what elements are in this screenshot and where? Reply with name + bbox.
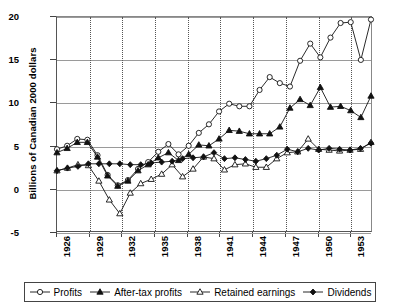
data-point-filled-diamond bbox=[169, 158, 174, 164]
data-point-filled-triangle bbox=[226, 127, 232, 132]
y-axis-title: Billions of Canadian 2000 dollars bbox=[27, 14, 38, 234]
data-point-open-circle bbox=[227, 101, 232, 106]
data-point-open-triangle bbox=[263, 164, 269, 169]
data-point-filled-diamond bbox=[253, 158, 258, 164]
x-tick-label: 1950 bbox=[323, 236, 334, 257]
x-tick-label: 1941 bbox=[224, 236, 235, 257]
legend-label: Retained earnings bbox=[214, 287, 295, 298]
series-profits bbox=[54, 17, 373, 188]
data-point-open-triangle bbox=[106, 197, 112, 202]
data-point-filled-diamond bbox=[368, 140, 373, 146]
data-point-open-circle bbox=[348, 20, 353, 25]
data-series-layer bbox=[57, 17, 371, 232]
data-point-open-circle bbox=[308, 41, 313, 46]
series-line bbox=[57, 87, 371, 186]
x-tick-label: 1953 bbox=[355, 236, 366, 257]
data-point-filled-diamond bbox=[117, 161, 122, 167]
chart-container: Billions of Canadian 2000 dollars 201510… bbox=[0, 0, 397, 307]
data-point-open-circle bbox=[247, 104, 252, 109]
data-point-filled-diamond bbox=[222, 156, 227, 162]
data-point-open-circle bbox=[196, 130, 201, 135]
data-point-open-circle bbox=[206, 122, 211, 127]
data-point-filled-triangle bbox=[368, 93, 374, 98]
legend-label: Dividends bbox=[327, 287, 371, 298]
x-tick-label: 1944 bbox=[257, 236, 268, 257]
data-point-open-circle bbox=[358, 57, 363, 62]
data-point-open-circle bbox=[216, 109, 221, 114]
data-point-filled-diamond bbox=[107, 161, 112, 167]
data-point-open-circle bbox=[277, 81, 282, 86]
data-point-open-circle bbox=[257, 87, 262, 92]
data-point-open-triangle bbox=[148, 176, 154, 181]
horizontal-gridline bbox=[57, 233, 371, 234]
legend-item-dividends[interactable]: Dividends bbox=[302, 287, 371, 298]
legend-item-after-tax-profits[interactable]: After-tax profits bbox=[89, 287, 182, 298]
legend-marker-open-circle-icon bbox=[29, 287, 51, 297]
data-point-open-circle bbox=[287, 84, 292, 89]
legend-marker-filled-diamond-icon bbox=[302, 287, 324, 297]
data-point-filled-diamond bbox=[285, 146, 290, 152]
data-point-filled-diamond bbox=[311, 289, 316, 295]
data-point-filled-triangle bbox=[307, 102, 313, 107]
data-point-open-circle bbox=[166, 141, 171, 146]
data-point-filled-diamond bbox=[232, 155, 237, 161]
legend-item-retained-earnings[interactable]: Retained earnings bbox=[189, 287, 295, 298]
chart-legend: ProfitsAfter-tax profitsRetained earning… bbox=[24, 282, 376, 302]
data-point-filled-triangle bbox=[277, 124, 283, 129]
y-tick-label: 0 bbox=[0, 183, 19, 194]
data-point-open-circle bbox=[267, 75, 272, 80]
legend-marker-filled-triangle-icon bbox=[89, 287, 111, 297]
data-point-open-circle bbox=[176, 152, 181, 157]
x-tick-label: 1947 bbox=[290, 236, 301, 257]
legend-label: After-tax profits bbox=[114, 287, 182, 298]
y-tick-label: -5 bbox=[0, 227, 19, 238]
data-point-open-circle bbox=[186, 143, 191, 148]
data-point-filled-diamond bbox=[128, 162, 133, 168]
data-point-open-circle bbox=[298, 58, 303, 63]
y-tick-label: 5 bbox=[0, 140, 19, 151]
data-point-filled-diamond bbox=[211, 150, 216, 156]
data-point-open-circle bbox=[37, 289, 42, 294]
legend-item-profits[interactable]: Profits bbox=[29, 287, 82, 298]
data-point-filled-triangle bbox=[256, 131, 262, 136]
x-tick-label: 1929 bbox=[94, 236, 105, 257]
data-point-filled-triangle bbox=[196, 142, 202, 147]
x-tick-label: 1926 bbox=[61, 236, 72, 257]
data-point-filled-triangle bbox=[358, 114, 364, 119]
data-point-filled-diamond bbox=[264, 156, 269, 162]
data-point-open-circle bbox=[338, 20, 343, 25]
y-tick-label: 20 bbox=[0, 11, 19, 22]
plot-area bbox=[56, 16, 372, 232]
data-point-filled-triangle bbox=[267, 131, 273, 136]
series-retained-earnings bbox=[54, 136, 374, 216]
data-point-open-circle bbox=[368, 17, 373, 22]
data-point-open-circle bbox=[156, 149, 161, 154]
data-point-filled-triangle bbox=[337, 103, 343, 108]
data-point-open-triangle bbox=[305, 136, 311, 141]
x-tick-label: 1938 bbox=[192, 236, 203, 257]
data-point-filled-triangle bbox=[97, 289, 103, 294]
data-point-open-circle bbox=[328, 35, 333, 40]
data-point-filled-triangle bbox=[317, 84, 323, 89]
x-tick-label: 1932 bbox=[126, 236, 137, 257]
y-tick-label: 10 bbox=[0, 97, 19, 108]
x-tick-label: 1935 bbox=[159, 236, 170, 257]
y-tick-label: 15 bbox=[0, 54, 19, 65]
series-after-tax-profits bbox=[54, 84, 374, 188]
data-point-open-triangle bbox=[197, 289, 203, 294]
data-point-filled-triangle bbox=[297, 96, 303, 101]
data-point-open-circle bbox=[237, 104, 242, 109]
data-point-filled-diamond bbox=[316, 147, 321, 153]
legend-marker-open-triangle-icon bbox=[189, 287, 211, 297]
data-point-filled-diamond bbox=[305, 145, 310, 151]
data-point-filled-triangle bbox=[165, 149, 171, 154]
data-point-filled-triangle bbox=[155, 155, 161, 160]
data-point-open-circle bbox=[318, 55, 323, 60]
legend-label: Profits bbox=[54, 287, 82, 298]
data-point-filled-diamond bbox=[243, 157, 248, 163]
